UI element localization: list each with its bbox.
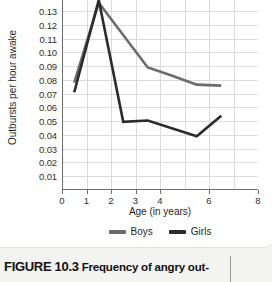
y-axis-tick-label: 0.04 xyxy=(39,129,57,140)
y-axis-tick-label: 0.08 xyxy=(39,74,57,85)
figure-number: FIGURE 10.3 xyxy=(4,259,79,274)
legend-swatch-boys xyxy=(109,230,126,234)
chart-series-layer xyxy=(62,0,258,190)
legend-label: Boys xyxy=(131,226,153,237)
y-axis-tick-label: 0.12 xyxy=(39,19,57,30)
y-axis-tick-label: 0.03 xyxy=(39,143,57,154)
x-axis-title-text: Age (in years) xyxy=(129,206,191,217)
x-axis-tick-mark xyxy=(87,190,88,194)
x-axis-tick-label: 3 xyxy=(133,195,138,206)
y-axis-title: Outbursts per hour awake xyxy=(6,12,20,162)
legend-item-boys: Boys xyxy=(109,226,153,237)
x-axis-tick-mark xyxy=(209,190,210,194)
x-axis-tick-mark xyxy=(62,190,63,194)
x-axis-tick-label: 1 xyxy=(84,195,89,206)
y-axis-title-text: Outbursts per hour awake xyxy=(8,29,19,144)
plot-frame: 0.010.020.030.040.050.060.070.080.090.10… xyxy=(62,0,258,190)
figure-caption: FIGURE 10.3Frequency of angry out- xyxy=(4,260,226,274)
y-axis-tick-label: 0.13 xyxy=(39,6,57,17)
y-axis-tick-label: 0.10 xyxy=(39,47,57,58)
y-axis-tick-label: 0.11 xyxy=(40,33,57,44)
y-axis-tick-label: 0.09 xyxy=(39,61,57,72)
x-axis-tick-mark xyxy=(136,190,137,194)
x-axis-tick-label: 2 xyxy=(108,195,113,206)
legend-swatch-girls xyxy=(169,230,186,234)
y-axis-tick-label: 0.07 xyxy=(39,88,57,99)
x-axis-tick-label: 8 xyxy=(255,195,260,206)
figure-caption-text: Frequency of angry out- xyxy=(82,261,209,273)
x-axis-tick-mark xyxy=(258,190,259,194)
x-axis-title: Age (in years) xyxy=(62,206,258,217)
x-axis-tick-mark xyxy=(160,190,161,194)
series-line-boys xyxy=(74,3,221,86)
x-axis-tick-label: 4 xyxy=(157,195,162,206)
legend-item-girls: Girls xyxy=(169,226,212,237)
y-axis-tick-label: 0.02 xyxy=(39,157,57,168)
column-divider xyxy=(230,256,231,282)
x-axis-tick-mark xyxy=(111,190,112,194)
plot-area: 0.010.020.030.040.050.060.070.080.090.10… xyxy=(62,0,258,190)
y-axis-tick-label: 0.06 xyxy=(39,102,57,113)
x-axis-tick-label: 6 xyxy=(206,195,211,206)
y-axis-tick-label: 0.01 xyxy=(39,171,57,182)
x-axis-tick-label: 0 xyxy=(59,195,64,206)
chart-legend: BoysGirls xyxy=(62,226,258,237)
legend-label: Girls xyxy=(191,226,212,237)
y-axis-tick-label: 0.05 xyxy=(39,116,57,127)
